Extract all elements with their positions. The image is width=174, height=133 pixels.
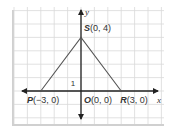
point-label-r: R(3, 0): [120, 95, 148, 105]
point-name: O: [84, 95, 91, 105]
point-label-p: P(−3, 0): [27, 95, 59, 105]
y-axis-label: y: [84, 7, 89, 17]
coordinate-plane: P(−3, 0)O(0, 0)R(3, 0)S(0, 4)xy1: [0, 0, 174, 133]
coordinate-plane-figure: P(−3, 0)O(0, 0)R(3, 0)S(0, 4)xy1: [0, 0, 174, 133]
x-axis-label: x: [156, 95, 161, 105]
unit-marker: 1: [71, 79, 76, 88]
point-coordinates: (3, 0): [127, 95, 148, 105]
point-coordinates: (−3, 0): [33, 95, 59, 105]
point-coordinates: (0, 4): [90, 23, 111, 33]
point-coordinates: (0, 0): [91, 95, 112, 105]
point-label-s: S(0, 4): [84, 23, 111, 33]
point-label-o: O(0, 0): [84, 95, 112, 105]
